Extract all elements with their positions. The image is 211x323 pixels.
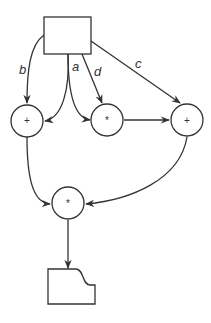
edge-c: [91, 41, 180, 103]
op-add-left: +: [24, 115, 30, 126]
label-d: d: [94, 64, 102, 79]
edge-a-left: [45, 54, 68, 121]
output-node: [48, 269, 95, 304]
label-a: a: [72, 59, 79, 74]
diagram-canvas: + * + * b a d c: [0, 0, 211, 323]
source-node: [44, 17, 91, 54]
edge-b: [27, 35, 44, 103]
op-add-right: +: [184, 115, 190, 126]
label-b: b: [19, 62, 26, 77]
edge-right-bottom: [86, 137, 187, 204]
op-mul-bottom: *: [66, 198, 70, 209]
label-c: c: [135, 56, 142, 71]
op-mul-mid: *: [105, 115, 109, 126]
dataflow-diagram: + * + * b a d c: [0, 0, 211, 323]
edge-left-bottom: [27, 137, 50, 204]
